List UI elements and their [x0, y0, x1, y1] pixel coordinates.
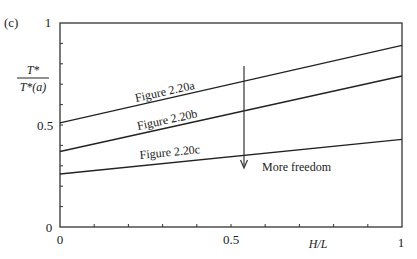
y-tick-1: 1: [45, 15, 52, 30]
x-tick-1: 1: [398, 235, 405, 250]
series-line-b: [60, 76, 402, 152]
y-label-denominator: T*(a): [20, 80, 47, 94]
panel-label: (c): [4, 15, 18, 30]
series-label-a: Figure 2.20a: [134, 78, 197, 105]
series-line-a: [60, 45, 402, 123]
y-label-numerator: T*: [27, 63, 40, 77]
series-label-c: Figure 2.20c: [139, 142, 201, 162]
series-label-b: Figure 2.20b: [136, 106, 199, 132]
annotation-more-freedom: More freedom: [262, 160, 332, 174]
series-line-c: [60, 139, 402, 174]
x-tick-0: 0: [57, 232, 64, 247]
x-axis-label: H/L: [308, 237, 328, 251]
x-tick-05: 0.5: [223, 232, 239, 247]
y-tick-0: 0: [46, 220, 53, 235]
chart: Figure 2.20a Figure 2.20b Figure 2.20c M…: [0, 0, 417, 259]
plot-frame: [60, 23, 402, 227]
y-tick-05: 0.5: [37, 118, 53, 133]
